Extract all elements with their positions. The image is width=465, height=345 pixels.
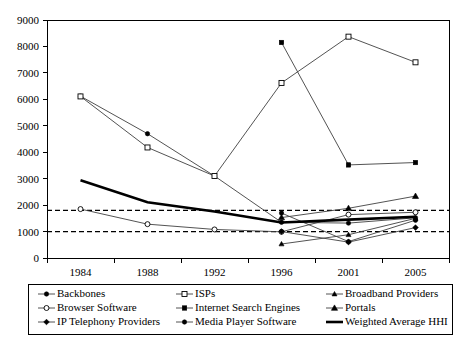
legend-label-portals: Portals (345, 301, 376, 313)
legend-label-weighted-average-hhi: Weighted Average HHI (345, 315, 448, 327)
data-point-browser-software-2005 (413, 210, 418, 215)
legend-label-broadband-providers: Broadband Providers (345, 287, 438, 299)
data-point-media-player-software-2001 (346, 239, 350, 243)
legend-label-isps: ISPs (195, 287, 215, 299)
legend-swatch-marker-backbones (44, 292, 48, 296)
legend-item-internet-search-engines[interactable]: Internet Search Engines (176, 301, 300, 313)
legend-label-backbones: Backbones (57, 287, 105, 299)
legend-swatch-marker-browser-software (44, 306, 49, 311)
data-point-isps-1984 (78, 94, 83, 99)
y-tick-label-4000: 4000 (17, 146, 40, 158)
y-tick-label-0: 0 (34, 252, 40, 264)
data-point-internet-search-engines-1996 (279, 40, 283, 44)
chart-legend: BackbonesISPsBroadband ProvidersBrowser … (28, 284, 452, 334)
legend-item-weighted-average-hhi[interactable]: Weighted Average HHI (326, 315, 448, 327)
data-point-browser-software-1984 (78, 207, 83, 212)
legend-label-media-player-software: Media Player Software (195, 315, 297, 327)
y-tick-label-6000: 6000 (17, 93, 40, 105)
data-point-internet-search-engines-2005 (413, 160, 417, 164)
y-tick-label-7000: 7000 (17, 67, 40, 79)
x-tick-label-1992: 1992 (204, 266, 226, 278)
legend-swatch-marker-isps (182, 292, 187, 297)
y-tick-label-8000: 8000 (17, 40, 40, 52)
data-point-isps-2005 (413, 60, 418, 65)
x-tick-label-1984: 1984 (70, 266, 93, 278)
data-point-isps-1988 (145, 145, 150, 150)
data-point-backbones-2001 (346, 221, 350, 225)
x-tick-label-1988: 1988 (137, 266, 160, 278)
hhi-line-chart: 0100020003000400050006000700080009000 19… (0, 0, 465, 345)
y-tick-label-9000: 9000 (17, 14, 40, 26)
y-tick-label-5000: 5000 (17, 120, 40, 132)
legend-label-ip-telephony-providers: IP Telephony Providers (57, 315, 160, 327)
data-point-media-player-software-1996 (279, 211, 283, 215)
data-point-internet-search-engines-2001 (346, 163, 350, 167)
y-tick-label-1000: 1000 (17, 226, 40, 238)
data-point-browser-software-1988 (145, 222, 150, 227)
data-point-browser-software-1992 (212, 227, 217, 232)
y-tick-label-3000: 3000 (17, 173, 40, 185)
data-point-isps-1992 (212, 174, 217, 179)
data-point-isps-2001 (346, 34, 351, 39)
data-point-browser-software-2001 (346, 212, 351, 217)
legend-label-internet-search-engines: Internet Search Engines (195, 301, 300, 313)
x-tick-label-1996: 1996 (271, 266, 294, 278)
legend-label-browser-software: Browser Software (57, 301, 137, 313)
data-point-backbones-1988 (145, 132, 149, 136)
x-tick-label-2005: 2005 (405, 266, 428, 278)
legend-swatch-marker-media-player-software (182, 320, 186, 324)
legend-swatch-marker-internet-search-engines (182, 306, 186, 310)
legend-item-media-player-software[interactable]: Media Player Software (176, 315, 297, 327)
data-point-media-player-software-2005 (413, 218, 417, 222)
data-point-isps-1996 (279, 80, 284, 85)
chart-canvas: 0100020003000400050006000700080009000 19… (0, 0, 465, 345)
legend-item-ip-telephony-providers[interactable]: IP Telephony Providers (38, 315, 160, 327)
data-point-backbones-1996 (279, 220, 283, 224)
x-tick-label-2001: 2001 (338, 266, 360, 278)
y-tick-label-2000: 2000 (17, 199, 40, 211)
